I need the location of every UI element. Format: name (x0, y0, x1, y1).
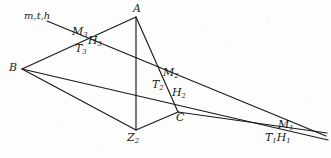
segment-c-to-m1 (178, 112, 327, 133)
label-point-z2: Z2 (127, 132, 139, 143)
label-vertex-c: C (176, 112, 184, 123)
label-point-m3: M3 (72, 26, 88, 37)
label-point-h3-base: H (88, 34, 98, 47)
label-point-t1h1-h: H (277, 131, 287, 144)
label-point-z2-base: Z (127, 131, 135, 144)
segment-z2-c (136, 112, 178, 130)
label-point-m1-base: M (278, 118, 289, 131)
label-point-h3: H3 (88, 35, 102, 46)
label-point-z2-sub: 2 (135, 137, 139, 145)
label-point-t2: T2 (152, 79, 164, 90)
label-vertex-b: B (9, 62, 17, 73)
label-point-t3-sub: 3 (82, 48, 86, 56)
segment-b-z2 (22, 69, 136, 130)
label-vertex-a: A (133, 3, 141, 14)
label-point-h3-sub: 3 (98, 40, 102, 48)
label-point-m3-base: M (72, 25, 83, 38)
label-point-t1h1-h-sub: 1 (286, 137, 290, 145)
label-point-h2-base: H (172, 86, 182, 99)
label-point-t3: T3 (75, 43, 87, 54)
label-point-h2-sub: 2 (182, 92, 186, 100)
geometry-figure: m,t,h A B C Z2 M3 H3 T3 M2 T2 H2 M1 T1H1 (0, 0, 331, 158)
label-point-m1: M1 (278, 119, 294, 130)
label-point-m2-base: M (163, 66, 174, 79)
label-point-m1-sub: 1 (289, 124, 293, 132)
label-point-t2-sub: 2 (159, 84, 163, 92)
label-point-t1h1: T1H1 (265, 132, 291, 143)
label-line-mth: m,t,h (24, 11, 50, 21)
label-point-m2: M2 (163, 67, 179, 78)
label-point-t1h1-t-sub: 1 (272, 137, 276, 145)
label-point-m2-sub: 2 (174, 72, 178, 80)
label-point-h2: H2 (172, 87, 186, 98)
label-point-m3-sub: 3 (83, 31, 87, 39)
